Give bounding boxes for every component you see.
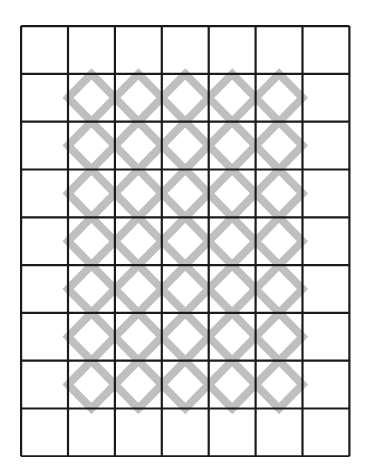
grid-cell <box>209 408 256 456</box>
grid-cell <box>115 408 162 456</box>
grid-cell <box>21 26 68 74</box>
grid-cell <box>21 408 68 456</box>
grid-cell <box>68 26 115 74</box>
grid-cell <box>302 26 349 74</box>
pattern-canvas <box>0 0 369 468</box>
grid-cell <box>21 313 68 361</box>
grid-cell <box>115 169 162 217</box>
grid-cell <box>115 361 162 409</box>
grid-cell <box>256 169 303 217</box>
grid-cell <box>162 74 209 122</box>
grid-cell <box>68 313 115 361</box>
grid-cell <box>21 217 68 265</box>
grid-cell <box>68 361 115 409</box>
grid-cell <box>68 408 115 456</box>
grid-cell <box>68 217 115 265</box>
grid-cell <box>115 265 162 313</box>
grid-cell <box>302 408 349 456</box>
grid-cell <box>21 74 68 122</box>
grid-cell <box>68 265 115 313</box>
grid-cell <box>209 122 256 170</box>
grid-cell <box>256 361 303 409</box>
grid-cell <box>209 313 256 361</box>
grid-cell <box>115 313 162 361</box>
grid-lattice-svg <box>20 25 351 457</box>
grid-cell <box>256 408 303 456</box>
grid-cell <box>21 122 68 170</box>
grid-cell <box>302 74 349 122</box>
grid-cell <box>162 408 209 456</box>
grid-cell <box>209 26 256 74</box>
grid-cell <box>162 361 209 409</box>
grid-cell <box>302 217 349 265</box>
grid-cell <box>256 26 303 74</box>
grid-cell <box>162 26 209 74</box>
grid-cell <box>115 122 162 170</box>
grid-cell <box>302 313 349 361</box>
grid-cell <box>256 74 303 122</box>
grid-cell <box>68 122 115 170</box>
grid-container <box>20 25 351 457</box>
grid-cell <box>162 313 209 361</box>
grid-cell <box>209 265 256 313</box>
grid-cell <box>302 122 349 170</box>
grid-cell <box>256 122 303 170</box>
grid-cell <box>21 361 68 409</box>
grid-cell <box>162 169 209 217</box>
grid-cell <box>115 74 162 122</box>
grid-cell <box>209 74 256 122</box>
grid-cell <box>256 217 303 265</box>
grid-cell <box>21 169 68 217</box>
grid-cell <box>68 74 115 122</box>
grid-cell <box>256 265 303 313</box>
grid-cell <box>256 313 303 361</box>
grid-cell <box>115 26 162 74</box>
grid-cell <box>209 361 256 409</box>
diamond-layer <box>21 26 349 456</box>
grid-cell <box>68 169 115 217</box>
grid-cell <box>302 169 349 217</box>
grid-cell <box>115 217 162 265</box>
grid-cell <box>21 265 68 313</box>
grid-cell <box>162 265 209 313</box>
grid-cell <box>302 361 349 409</box>
grid-cell <box>209 217 256 265</box>
grid-cell <box>162 122 209 170</box>
grid-cell <box>162 217 209 265</box>
grid-cell <box>209 169 256 217</box>
grid-cell <box>302 265 349 313</box>
